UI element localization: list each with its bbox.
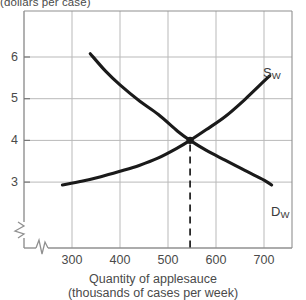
supply-demand-chart: (dollars per case): [0, 0, 306, 300]
y-axis-title: (dollars per case): [0, 0, 91, 8]
supply-curve-label: SW: [263, 66, 281, 79]
x-axis-tick-label-600: 600: [196, 254, 236, 267]
grid-lines: [24, 11, 292, 248]
demand-curve-label-subscript: W: [280, 209, 289, 220]
tick-marks: [24, 57, 30, 182]
x-axis-title-line1: Quantity of applesauce: [0, 272, 306, 286]
supply-curve-label-subscript: W: [272, 70, 281, 81]
y-axis-tick-label-5: 5: [2, 92, 18, 105]
x-axis-tick-label-300: 300: [52, 254, 92, 267]
equilibrium-point-marker: [186, 137, 193, 144]
y-axis-break-icon: [15, 222, 24, 238]
demand-curve: [90, 54, 271, 185]
y-axis-tick-label-4: 4: [2, 134, 18, 147]
axis-break-marks: [15, 222, 48, 254]
x-axis-break-icon: [36, 240, 48, 254]
axis-frame: [24, 11, 292, 248]
x-axis-tick-label-500: 500: [148, 254, 188, 267]
supply-curve-label-text: S: [263, 65, 272, 80]
data-curves: [62, 54, 271, 185]
demand-curve-label: DW: [271, 205, 289, 218]
x-axis-tick-label-700: 700: [244, 254, 284, 267]
x-axis-tick-label-400: 400: [100, 254, 140, 267]
x-axis-title-line2: (thousands of cases per week): [0, 286, 306, 300]
y-axis-tick-label-6: 6: [2, 51, 18, 64]
demand-curve-label-text: D: [271, 204, 280, 219]
y-axis-tick-label-3: 3: [2, 176, 18, 189]
